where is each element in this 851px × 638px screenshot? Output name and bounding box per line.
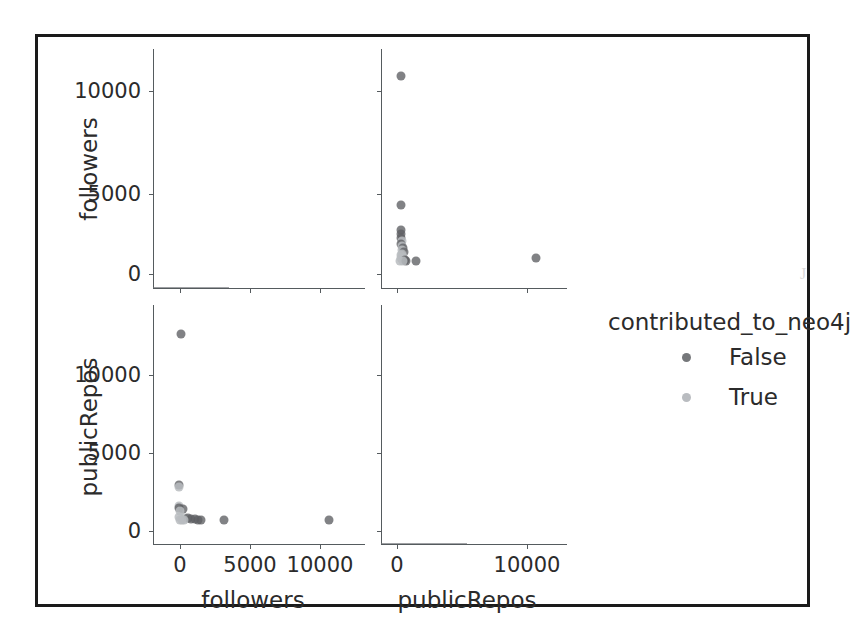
legend-item-true[interactable]: True [608,379,848,415]
scatter-point [412,256,421,265]
ticklabel-x-5000: 5000 [223,553,276,577]
scatter-point [399,257,408,266]
axis-label-y-followers: followers [76,117,102,220]
axis-label-y-publicrepos: publicRepos [76,358,102,497]
legend-item-false[interactable]: False [608,339,848,375]
ticklabel-y-0: 0 [41,519,141,543]
tick-x-5000 [250,289,251,293]
legend-marker-true-icon [682,393,691,402]
tick-x-0 [397,545,398,549]
scatter-point [396,72,405,81]
cropped-text-above-figure [0,0,833,16]
legend: contributed_to_neo4j False True [608,309,848,415]
ticklabel-y-10000: 10000 [41,79,141,103]
tick-y-5000 [377,194,381,195]
panel-plot-area [381,49,567,289]
panel-plot-area [153,305,365,545]
scatter-point [396,201,405,210]
kde-curve-followers [153,56,229,288]
legend-title: contributed_to_neo4j [608,309,848,335]
tick-y-10000 [149,375,153,376]
tick-x-5000 [250,545,251,549]
kde-curve-publicrepos [381,308,467,544]
scatter-point [176,516,185,525]
axis-label-x-followers: followers [201,587,304,613]
ticklabel-x-0: 0 [173,553,186,577]
tick-x-0 [180,289,181,293]
kde-svg [153,56,229,288]
tick-x-10000 [527,545,528,549]
ticklabel-x-0: 0 [390,553,403,577]
axis-label-x-publicrepos: publicRepos [398,587,537,613]
tick-y-0 [149,274,153,275]
scatter-point [325,516,334,525]
scatter-point [177,330,186,339]
tick-y-0 [377,531,381,532]
scatter-point [531,253,540,262]
panel-bottom-left-scatter: 10000 5000 0 0 5000 10000 followers [153,305,365,545]
tick-y-10000 [149,91,153,92]
tick-x-0 [397,289,398,293]
legend-label-true: True [729,384,778,410]
scatter-point [197,516,206,525]
tick-y-10000 [377,375,381,376]
panel-top-left-kde-followers: 10000 5000 0 [153,49,365,289]
panel-bottom-right-kde-publicrepos: 0 10000 publicRepos [381,305,567,545]
scatter-point [220,516,229,525]
tick-y-5000 [149,194,153,195]
tick-x-0 [180,545,181,549]
tick-y-5000 [149,453,153,454]
tick-y-5000 [377,453,381,454]
panel-plot-area [381,305,567,545]
tick-y-0 [149,531,153,532]
ticklabel-y-0: 0 [41,262,141,286]
tick-x-10000 [527,289,528,293]
scatter-point [175,483,184,492]
panel-top-right-scatter [381,49,567,289]
panel-plot-area [153,49,365,289]
tick-x-10000 [320,545,321,549]
tick-y-10000 [377,91,381,92]
tick-y-0 [377,274,381,275]
figure-frame: 10000 5000 0 followers 10000 5000 0 0 50… [35,34,810,607]
ticklabel-x-10000: 10000 [287,553,354,577]
tick-x-10000 [320,289,321,293]
legend-marker-false-icon [682,353,691,362]
ticklabel-x-10000: 10000 [494,553,561,577]
legend-label-false: False [729,344,787,370]
kde-svg [381,308,467,544]
scan-artifact: J [800,265,808,281]
